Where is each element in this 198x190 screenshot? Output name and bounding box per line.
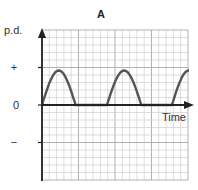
x-axis-label: Time: [162, 111, 186, 123]
y-tick-minus: −: [11, 136, 17, 148]
x-axis-arrow-icon: [184, 101, 194, 109]
pd-time-graph: A p.d. + 0 − Time: [0, 0, 198, 190]
y-axis-arrow-icon: [38, 28, 46, 38]
pd-curve: [42, 71, 198, 106]
chart-title: A: [97, 8, 105, 20]
y-axis-label: p.d.: [4, 24, 22, 36]
y-tick-zero: 0: [13, 99, 19, 111]
y-tick-plus: +: [11, 61, 17, 73]
axes: [38, 28, 194, 181]
